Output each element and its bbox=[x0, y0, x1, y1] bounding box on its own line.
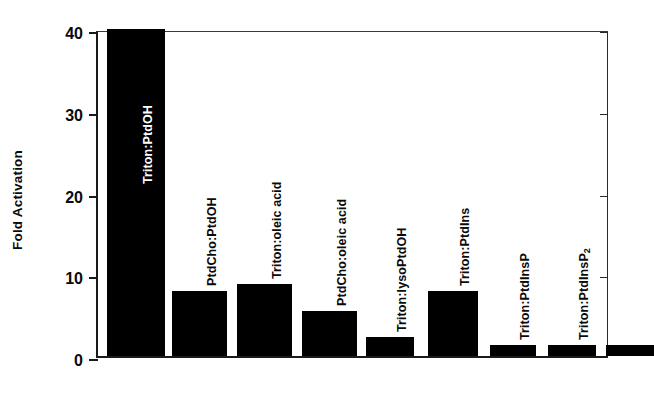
y-axis-title: Fold Activation bbox=[10, 130, 32, 270]
y-axis-tick-right bbox=[600, 196, 608, 197]
y-axis-tick-right bbox=[600, 32, 608, 33]
bar bbox=[490, 345, 536, 356]
y-axis-tick: 40 bbox=[89, 32, 98, 34]
y-axis-tick-label: 0 bbox=[74, 351, 83, 371]
bar-label: Triton:PtdIns bbox=[459, 207, 472, 285]
y-axis-tick-right bbox=[600, 277, 608, 278]
bar bbox=[428, 291, 478, 356]
bar bbox=[172, 291, 227, 356]
bar-label: Triton:lysoPtdOH bbox=[396, 228, 409, 332]
y-axis-tick-label: 20 bbox=[65, 188, 83, 208]
bar bbox=[606, 345, 654, 356]
bar-label: PtdCho:PtdOH bbox=[206, 197, 219, 286]
y-axis-tick-label: 40 bbox=[65, 24, 83, 44]
bar-label: Triton:PtdInsP2 bbox=[578, 248, 592, 340]
y-axis-tick: 20 bbox=[89, 196, 98, 198]
y-axis-tick-label: 30 bbox=[65, 106, 83, 126]
bar-label: Triton:PtdInsP bbox=[519, 253, 532, 340]
bar-label: Triton:oleic acid bbox=[271, 181, 284, 279]
bar-label: PtdCho:oleic acid bbox=[336, 199, 349, 306]
bar bbox=[302, 311, 357, 356]
y-axis-tick: 30 bbox=[89, 114, 98, 116]
y-axis-tick: 10 bbox=[89, 277, 98, 279]
y-axis-tick-label: 10 bbox=[65, 269, 83, 289]
y-axis-tick-right bbox=[600, 114, 608, 115]
y-axis-tick: 0 bbox=[89, 359, 98, 361]
bar bbox=[107, 29, 165, 356]
bar bbox=[548, 345, 596, 356]
bar-label: Triton:PtdOH bbox=[142, 105, 155, 184]
plot-area: 010203040Triton:PtdOHPtdCho:PtdOHTriton:… bbox=[96, 31, 608, 358]
bar bbox=[366, 337, 414, 356]
bar bbox=[237, 284, 292, 356]
